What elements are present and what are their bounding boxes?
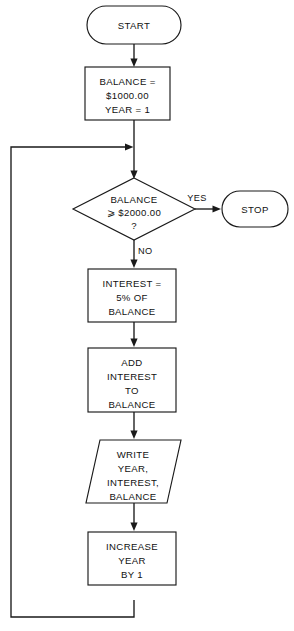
node-add-interest[interactable]: ADD INTEREST TO BALANCE <box>88 348 176 412</box>
edge-init-to-decision <box>130 120 137 179</box>
add-line-4: BALANCE <box>108 399 155 410</box>
decision-line-2: ⩾ $2000.00 <box>107 207 161 218</box>
node-write[interactable]: WRITE YEAR, INTEREST, BALANCE <box>86 440 181 503</box>
flowchart-svg: START BALANCE = $1000.00 YEAR = 1 BALANC… <box>0 0 294 631</box>
connector-layer <box>11 44 221 617</box>
node-start[interactable]: START <box>87 6 181 44</box>
init-line-1: BALANCE = <box>99 76 155 87</box>
edge-interest-to-add <box>130 322 137 347</box>
edge-decision-to-stop <box>195 205 221 212</box>
write-line-3: INTEREST, <box>107 477 159 488</box>
interest-line-2: 5% OF <box>116 292 148 303</box>
add-line-3: TO <box>125 385 139 396</box>
node-increase[interactable]: INCREASE YEAR BY 1 <box>88 532 176 585</box>
init-line-2: $1000.00 <box>106 90 149 101</box>
interest-line-1: INTEREST = <box>102 278 161 289</box>
write-line-1: WRITE <box>117 449 150 460</box>
node-interest[interactable]: INTEREST = 5% OF BALANCE <box>88 269 176 322</box>
decision-line-3: ? <box>131 220 137 231</box>
write-line-4: BALANCE <box>109 491 156 502</box>
edge-add-to-write <box>130 412 137 439</box>
branch-label-yes: YES <box>187 193 206 203</box>
node-init[interactable]: BALANCE = $1000.00 YEAR = 1 <box>85 67 170 120</box>
init-line-3: YEAR = 1 <box>105 104 150 115</box>
edge-start-to-init <box>130 44 137 67</box>
write-line-2: YEAR, <box>118 463 149 474</box>
flowchart-canvas: START BALANCE = $1000.00 YEAR = 1 BALANC… <box>0 0 294 631</box>
add-line-1: ADD <box>121 357 142 368</box>
interest-line-3: BALANCE <box>108 306 155 317</box>
edge-decision-to-interest <box>130 240 137 268</box>
decision-line-1: BALANCE <box>110 194 157 205</box>
increase-line-1: INCREASE <box>106 541 158 552</box>
node-stop[interactable]: STOP <box>222 191 288 227</box>
stop-label: STOP <box>241 204 268 215</box>
edge-write-to-increase <box>130 503 137 531</box>
add-line-2: INTEREST <box>107 371 157 382</box>
increase-line-3: BY 1 <box>121 569 143 580</box>
branch-label-no: NO <box>138 246 152 256</box>
start-label: START <box>118 20 150 31</box>
increase-line-2: YEAR <box>118 555 146 566</box>
node-decision[interactable]: BALANCE ⩾ $2000.00 ? <box>73 178 195 240</box>
